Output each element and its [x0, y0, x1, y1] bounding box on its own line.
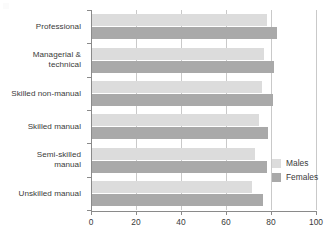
legend-label: Females [286, 172, 318, 182]
x-tick-label-100: 100 [301, 217, 331, 227]
category-label-line: Semi-skilled [0, 150, 81, 160]
bar-females-3 [91, 127, 268, 139]
y-tick-4 [87, 143, 91, 144]
bar-males-5 [91, 181, 252, 193]
x-tick-label-80: 80 [256, 217, 286, 227]
bar-females-5 [91, 194, 263, 206]
bar-males-4 [91, 148, 255, 160]
y-tick-0 [87, 10, 91, 11]
category-label-4: Semi-skilledmanual [0, 150, 81, 169]
y-tick-5 [87, 177, 91, 178]
category-label-2: Skilled non-manual [0, 89, 81, 99]
legend-item-males[interactable]: Males [272, 156, 331, 170]
x-tick-40 [181, 211, 182, 215]
x-tick-60 [226, 211, 227, 215]
category-label-0: Professional [0, 22, 81, 32]
bar-females-1 [91, 61, 274, 73]
category-label-line: technical [0, 60, 81, 70]
category-label-3: Skilled manual [0, 122, 81, 132]
x-tick-20 [136, 211, 137, 215]
bar-males-0 [91, 14, 267, 26]
legend-swatch-icon [272, 173, 281, 182]
legend-item-females[interactable]: Females [272, 170, 331, 184]
category-label-line: Unskilled manual [0, 189, 81, 199]
x-axis-line [91, 211, 317, 212]
bar-chart: ProfessionalManagerial &technicalSkilled… [0, 0, 331, 239]
x-tick-label-0: 0 [76, 217, 106, 227]
bar-females-4 [91, 161, 267, 173]
x-tick-0 [91, 211, 92, 215]
legend-label: Males [286, 158, 308, 168]
x-tick-label-40: 40 [166, 217, 196, 227]
category-label-5: Unskilled manual [0, 189, 81, 199]
y-tick-1 [87, 43, 91, 44]
bar-females-2 [91, 94, 273, 106]
legend: MalesFemales [272, 156, 331, 184]
bar-males-2 [91, 81, 262, 93]
y-tick-2 [87, 77, 91, 78]
y-tick-3 [87, 110, 91, 111]
legend-swatch-icon [272, 159, 281, 168]
x-tick-80 [271, 211, 272, 215]
category-label-line: manual [0, 160, 81, 170]
category-label-line: Skilled manual [0, 122, 81, 132]
category-label-line: Managerial & [0, 50, 81, 60]
bar-females-0 [91, 27, 277, 39]
category-label-line: Skilled non-manual [0, 89, 81, 99]
category-label-line: Professional [0, 22, 81, 32]
corner-artifact [3, 3, 9, 9]
x-tick-100 [316, 211, 317, 215]
y-axis-line [91, 10, 92, 211]
bar-males-3 [91, 114, 259, 126]
x-tick-label-60: 60 [211, 217, 241, 227]
category-axis-labels: ProfessionalManagerial &technicalSkilled… [0, 10, 86, 210]
x-tick-label-20: 20 [121, 217, 151, 227]
bar-males-1 [91, 48, 264, 60]
category-label-1: Managerial &technical [0, 50, 81, 69]
